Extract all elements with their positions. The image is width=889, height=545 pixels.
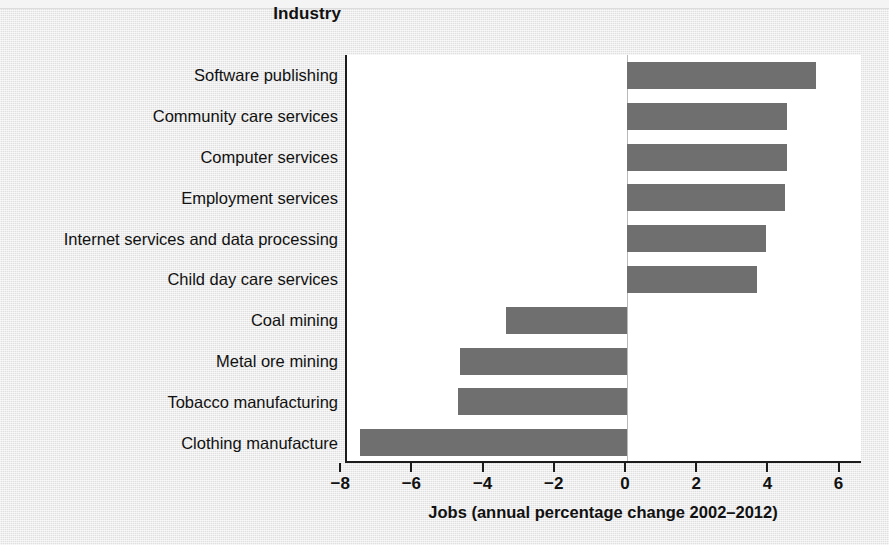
bar <box>627 225 766 252</box>
category-label: Coal mining <box>0 312 338 329</box>
x-axis-tick-label: 2 <box>666 474 726 494</box>
bar <box>627 144 787 171</box>
x-axis-tick <box>624 463 626 472</box>
x-axis-tick-label: −4 <box>453 474 513 494</box>
x-axis-tick <box>339 463 341 472</box>
bar <box>627 266 757 293</box>
x-axis-tick <box>482 463 484 472</box>
x-axis-tick-label: −6 <box>381 474 441 494</box>
plot-area <box>345 55 861 463</box>
category-label: Metal ore mining <box>0 353 338 370</box>
x-axis-tick <box>695 463 697 472</box>
x-axis-tick <box>838 463 840 472</box>
x-axis-tick <box>766 463 768 472</box>
x-axis-tick-label: −2 <box>524 474 584 494</box>
bar <box>460 348 627 375</box>
category-label: Clothing manufacture <box>0 435 338 452</box>
bar <box>627 103 787 130</box>
bar <box>458 388 627 415</box>
category-label-column: Software publishingCommunity care servic… <box>0 55 338 463</box>
bar <box>506 307 627 334</box>
category-label: Child day care services <box>0 271 338 288</box>
category-label: Internet services and data processing <box>0 231 338 248</box>
x-axis-tick-label: 4 <box>737 474 797 494</box>
x-axis-title: Jobs (annual percentage change 2002–2012… <box>345 503 861 522</box>
category-label: Community care services <box>0 108 338 125</box>
x-axis-tick-label: 0 <box>595 474 655 494</box>
category-label: Employment services <box>0 190 338 207</box>
bar <box>627 62 816 89</box>
x-axis-tick-label: 6 <box>809 474 869 494</box>
category-label: Software publishing <box>0 67 338 84</box>
x-axis-tick-label: −8 <box>310 474 370 494</box>
x-axis-tick <box>553 463 555 472</box>
bar <box>360 429 627 456</box>
x-axis-tick <box>410 463 412 472</box>
category-axis-title: Industry <box>0 4 341 24</box>
category-label: Computer services <box>0 149 338 166</box>
bar-chart-figure: Industry Software publishingCommunity ca… <box>0 0 889 545</box>
bar <box>627 184 785 211</box>
category-label: Tobacco manufacturing <box>0 394 338 411</box>
